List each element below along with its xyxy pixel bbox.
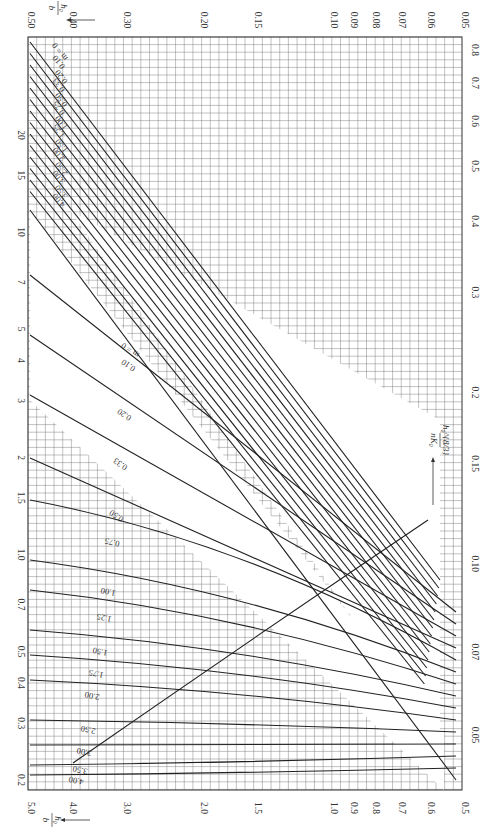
bottom-tick: 2.0: [199, 802, 209, 814]
bottom-tick: 1.5: [253, 802, 263, 814]
bottom-axis-title: h₀b: [41, 813, 63, 827]
left-tick: 1.0: [16, 549, 26, 561]
top-tick: 0.06: [426, 12, 436, 29]
curve-lower-400: [30, 768, 456, 775]
curve-label: 1.75: [88, 668, 105, 681]
curve-label: 2.00: [84, 690, 101, 703]
bottom-tick: 5.0: [26, 802, 36, 814]
top-tick: 0.09: [349, 12, 359, 29]
curve-label: 1.00: [100, 586, 117, 599]
left-tick: 5: [16, 327, 26, 332]
top-tick: 0.15: [253, 12, 263, 29]
left-tick: 0.4: [16, 677, 26, 689]
bottom-tick: 0.5: [460, 802, 470, 814]
right-tick: 0.7: [470, 77, 480, 89]
top-tick: 0.20: [199, 12, 209, 29]
bottom-tick: 4.0: [68, 802, 78, 814]
top-tick: 0.10: [329, 12, 339, 29]
right-tick: 0.07: [470, 644, 480, 661]
curve-label: 1.25: [96, 612, 113, 625]
left-tick: 15: [16, 171, 26, 181]
left-tick: 3: [16, 398, 26, 403]
top-axis-title: h₀b: [47, 1, 69, 15]
curve-lower-300: [30, 744, 456, 745]
bottom-tick: 0.6: [426, 802, 436, 814]
chart-svg: m = 00.100.200.330.500.751.001.251.502.0…: [0, 0, 483, 835]
left-tick: 0.5: [16, 646, 26, 658]
svg-text:h₀^{8/3}: h₀^{8/3}: [441, 425, 451, 456]
right-tick: 0.4: [470, 215, 480, 227]
right-tick: 0.15: [470, 455, 480, 472]
top-tick: 0.30: [122, 12, 132, 29]
left-tick: 0.7: [16, 599, 26, 611]
svg-text:nK₀: nK₀: [429, 433, 439, 447]
left-tick: 7: [16, 280, 26, 285]
top-tick: 0.07: [397, 12, 407, 29]
left-tick: 1.5: [16, 492, 26, 504]
curve-label: 3.00: [76, 746, 93, 759]
right-tick: 0.2: [470, 387, 480, 399]
right-tick: 0.6: [470, 115, 480, 127]
bottom-tick: 1.0: [329, 802, 339, 814]
right-tick: 0.8: [470, 44, 480, 56]
nomograph-chart: m = 00.100.200.330.500.751.001.251.502.0…: [0, 0, 483, 835]
left-tick: 4: [16, 358, 26, 363]
bottom-tick: 0.7: [397, 802, 407, 814]
svg-text:b: b: [47, 6, 57, 11]
bottom-tick: 3.0: [122, 802, 132, 814]
right-tick: 0.05: [470, 727, 480, 744]
svg-text:b: b: [41, 818, 51, 823]
left-tick: 10: [16, 227, 26, 237]
svg-text:h₀: h₀: [59, 4, 69, 12]
left-tick: 0.3: [16, 717, 26, 729]
curve-lower-350: [30, 756, 456, 765]
top-tick: 0.08: [371, 12, 381, 29]
top-tick: 0.50: [26, 12, 36, 29]
right-tick: 0.5: [470, 160, 480, 172]
bottom-tick: 0.9: [349, 802, 359, 814]
right-tick: 0.3: [470, 286, 480, 298]
curve-label: 0.50: [107, 508, 125, 525]
right-tick: 0.10: [470, 555, 480, 572]
left-tick: 2: [16, 455, 26, 460]
left-tick: 20: [16, 130, 26, 140]
top-tick: 0.05: [460, 12, 470, 29]
curve-label: 2.50: [80, 724, 97, 737]
curve-label: 0.75: [104, 536, 121, 549]
bottom-tick: 0.8: [371, 802, 381, 814]
left-tick: 0.2: [16, 774, 26, 786]
